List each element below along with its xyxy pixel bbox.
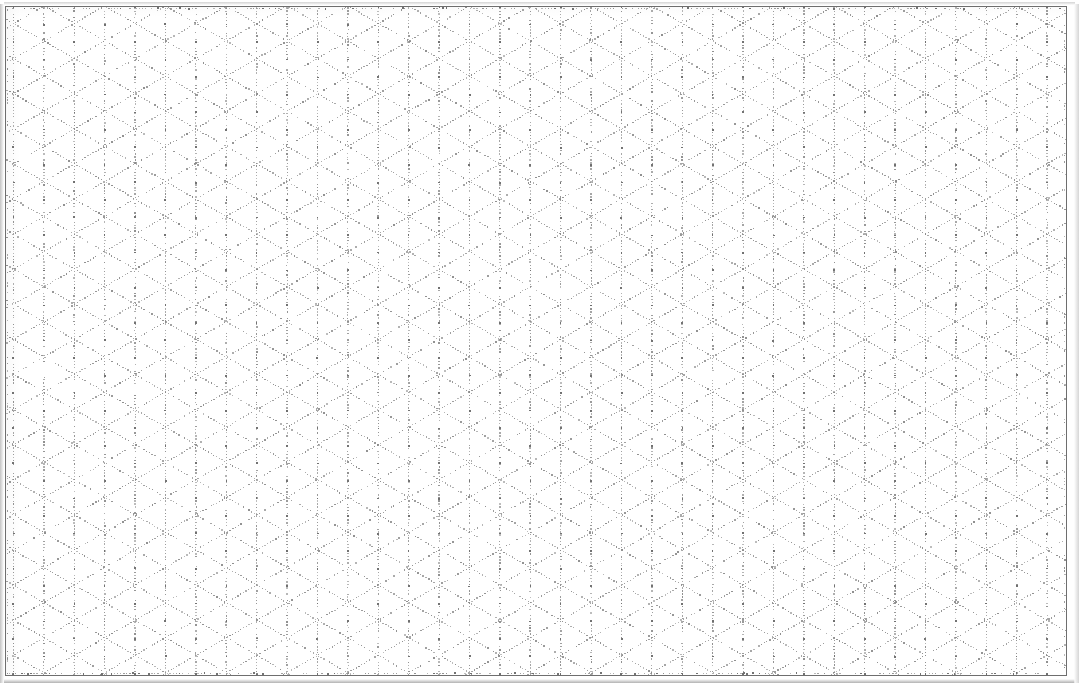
- isometric-dot-grid-field: [6, 7, 1066, 675]
- paper-surface: [0, 0, 1079, 687]
- scan-edge-shadow-bottom: [4, 679, 1075, 683]
- scan-edge-shadow-top: [4, 2, 1075, 5]
- scan-edge-shadow-right: [1074, 4, 1079, 683]
- dot-grid-canvas: [6, 7, 1066, 675]
- grid-border-frame: [5, 6, 1067, 676]
- scan-edge-shadow-left: [0, 4, 4, 683]
- screenshot-root: Isometric Dot Grid Paper: [0, 0, 1079, 687]
